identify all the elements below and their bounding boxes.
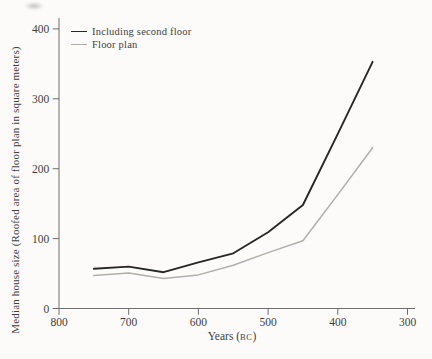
legend-swatch-black-line: [71, 31, 87, 33]
legend-label: Including second floor: [92, 26, 191, 37]
y-tick-label-300: 300: [32, 93, 50, 105]
x-tick-label-700: 700: [120, 316, 138, 328]
legend: Including second floor Floor plan: [71, 25, 191, 51]
y-axis-title: Median house size (Roofed area of floor …: [9, 46, 21, 333]
x-axis-title: Years (BC): [208, 330, 257, 342]
x-axis-title-close: ): [252, 330, 256, 342]
y-tick-label-200: 200: [32, 163, 50, 175]
chart-page: 0100200300400800700600500400300 Median h…: [0, 0, 432, 359]
series-line-0: [94, 62, 373, 272]
x-tick-label-800: 800: [50, 316, 68, 328]
x-tick-label-600: 600: [190, 316, 208, 328]
x-tick-label-500: 500: [259, 316, 277, 328]
y-tick-label-0: 0: [43, 303, 49, 315]
x-axis-title-text: Years (: [208, 330, 240, 342]
x-axis-title-smallcaps: BC: [240, 332, 252, 342]
legend-item-including-second-floor: Including second floor: [71, 25, 191, 38]
x-tick-label-300: 300: [399, 316, 417, 328]
series-line-1: [94, 148, 373, 279]
legend-item-floor-plan: Floor plan: [71, 38, 191, 51]
y-tick-label-100: 100: [32, 233, 50, 245]
y-tick-label-400: 400: [32, 23, 50, 35]
line-chart-plot: 0100200300400800700600500400300: [0, 0, 432, 359]
x-tick-label-400: 400: [329, 316, 347, 328]
legend-swatch-gray-line: [71, 44, 87, 46]
legend-label: Floor plan: [92, 39, 137, 50]
